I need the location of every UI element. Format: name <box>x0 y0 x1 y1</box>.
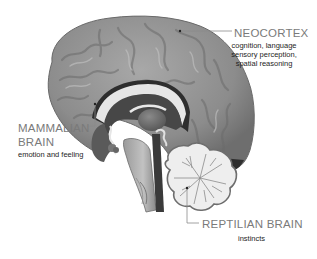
neocortex-desc-line: sensory perception, <box>228 50 300 59</box>
reptilian-label: REPTILIAN BRAIN <box>202 218 303 230</box>
neocortex-label: NEOCORTEX <box>234 27 308 39</box>
reptilian-description: instincts <box>238 234 265 243</box>
neocortex-desc-line: cognition, language <box>228 41 300 50</box>
mammalian-label-line2: BRAIN <box>18 136 54 148</box>
mammalian-description: emotion and feeling <box>18 150 83 159</box>
mammalian-label-line1: MAMMALIAN <box>18 122 89 134</box>
neocortex-desc-line: spatial reasoning <box>228 59 300 68</box>
brainstem <box>123 130 166 212</box>
neocortex-description: cognition, language sensory perception, … <box>228 41 300 68</box>
